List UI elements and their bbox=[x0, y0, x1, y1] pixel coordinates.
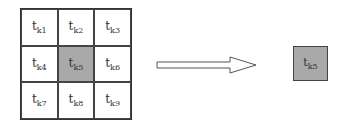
grid-cell-6: tk6 bbox=[94, 46, 131, 83]
grid-cell-9: tk9 bbox=[94, 82, 131, 119]
grid-cell-8: tk8 bbox=[58, 82, 95, 119]
grid-cell-5-center: tk5 bbox=[58, 46, 95, 83]
grid-cell-3: tk3 bbox=[94, 9, 131, 46]
grid-cell-1: tk1 bbox=[21, 9, 58, 46]
grid-cell-7: tk7 bbox=[21, 82, 58, 119]
input-3x3-grid: tk1 tk2 tk3 tk4 tk5 tk6 tk7 tk8 tk9 bbox=[20, 8, 132, 120]
right-arrow-icon bbox=[156, 56, 258, 74]
grid-cell-4: tk4 bbox=[21, 46, 58, 83]
grid-cell-2: tk2 bbox=[58, 9, 95, 46]
output-cell: tk5 bbox=[293, 46, 328, 81]
